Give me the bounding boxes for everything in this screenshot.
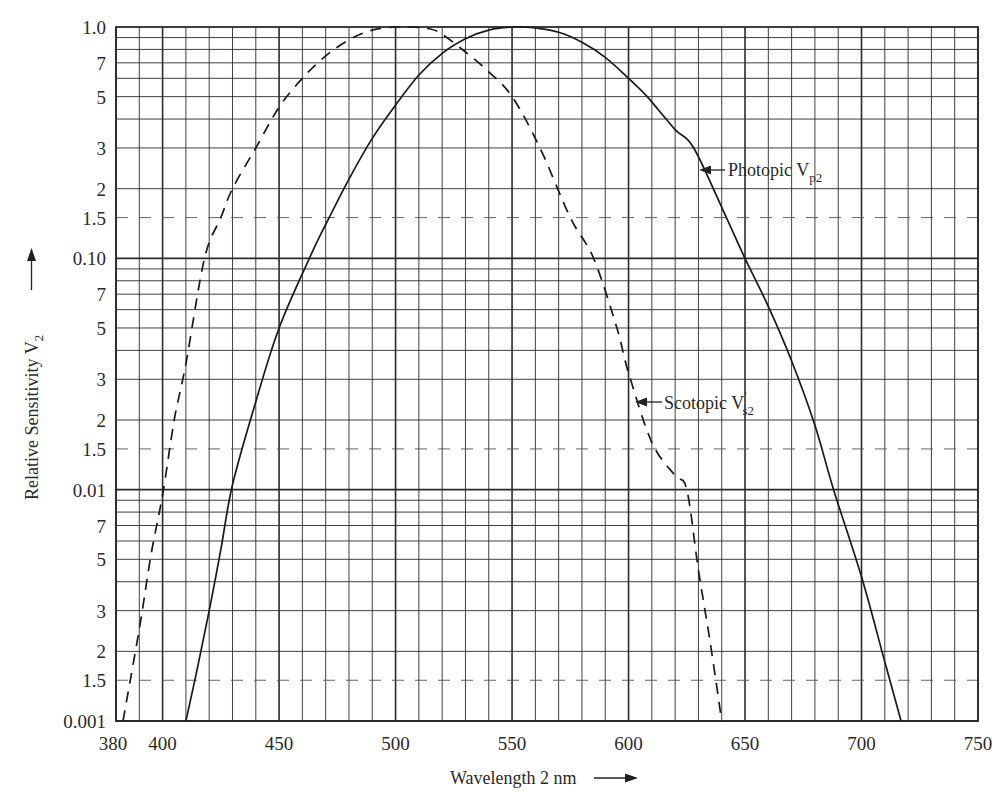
y-tick-label: 7 <box>97 53 107 74</box>
x-tick-label: 550 <box>498 733 527 754</box>
scotopic-annotation: Scotopic V's2 <box>635 388 754 418</box>
y-tick-label: 2 <box>97 641 107 662</box>
photopic-curve <box>186 27 901 721</box>
x-tick-label: 600 <box>614 733 643 754</box>
x-tick-label: 700 <box>847 733 876 754</box>
y-tick-label: 5 <box>97 549 107 570</box>
y-tick-label: 7 <box>97 516 107 537</box>
arrow-right-icon <box>594 774 638 783</box>
x-axis-ticks: 380400450500550600650700750 <box>99 733 993 754</box>
svg-text:Photopic Vp2: Photopic Vp2 <box>728 160 822 185</box>
y-tick-label: 0.001 <box>63 711 106 732</box>
y-tick-label: 3 <box>97 369 107 390</box>
y-tick-label: 3 <box>97 601 107 622</box>
scotopic-sup: ' <box>744 388 746 403</box>
svg-text:Relative Sensitivity V2: Relative Sensitivity V2 <box>22 335 46 500</box>
sensitivity-chart: 1.075321.50.1075321.50.0175321.50.001 38… <box>0 0 1002 808</box>
y-tick-label: 2 <box>97 179 107 200</box>
x-axis-title-text: Wavelength 2 nm <box>450 768 577 788</box>
x-tick-label: 650 <box>731 733 760 754</box>
photopic-sub: p2 <box>809 170 822 185</box>
plot-frame <box>116 27 978 721</box>
y-tick-label: 7 <box>97 284 107 305</box>
y-axis-ticks: 1.075321.50.1075321.50.0175321.50.001 <box>63 17 106 732</box>
arrow-up-icon <box>27 248 36 290</box>
photopic-label: Photopic V <box>728 160 809 180</box>
y-tick-label: 3 <box>97 138 107 159</box>
y-tick-label: 1.5 <box>82 439 106 460</box>
scotopic-sub: s2 <box>743 403 755 418</box>
y-tick-label: 1.0 <box>82 17 106 38</box>
y-tick-label: 1.5 <box>82 208 106 229</box>
x-axis-title: Wavelength 2 nm <box>450 768 638 788</box>
y-tick-label: 0.10 <box>73 248 106 269</box>
photopic-annotation: Photopic Vp2 <box>699 160 822 185</box>
x-tick-label: 500 <box>381 733 410 754</box>
svg-text:Scotopic V's2: Scotopic V's2 <box>664 388 754 418</box>
y-axis-title: Relative Sensitivity V2 <box>22 335 46 500</box>
y-axis-title-text: Relative Sensitivity V <box>22 341 42 500</box>
y-tick-label: 0.01 <box>73 480 106 501</box>
y-tick-label: 1.5 <box>82 670 106 691</box>
x-tick-label: 750 <box>964 733 993 754</box>
y-tick-label: 2 <box>97 410 107 431</box>
x-tick-label: 400 <box>148 733 177 754</box>
scotopic-curve <box>123 27 722 721</box>
y-tick-label: 5 <box>97 318 107 339</box>
plot-grid <box>116 27 978 721</box>
x-tick-label: 380 <box>99 733 128 754</box>
y-tick-label: 5 <box>97 87 107 108</box>
y-axis-title-sub: 2 <box>31 335 46 342</box>
scotopic-label: Scotopic V <box>664 393 744 413</box>
x-tick-label: 450 <box>265 733 294 754</box>
